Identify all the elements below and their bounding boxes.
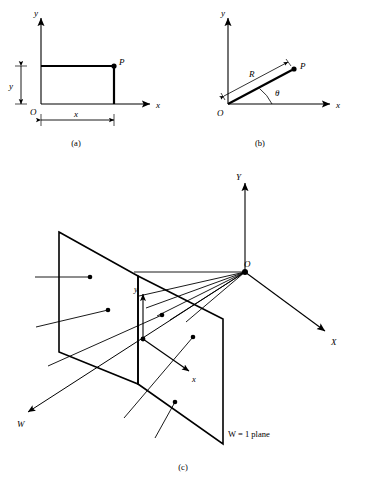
panel-c-local-origin-point: [141, 337, 146, 342]
panel-a-point-P: [111, 63, 116, 68]
panel-c-plane-label: W = 1 plane: [228, 429, 270, 439]
panel-c-local-x-label: x: [191, 374, 196, 384]
panel-c-origin-label: O: [244, 259, 251, 269]
panel-a-x-axis-label: x: [155, 100, 160, 110]
scene-point-3: [160, 313, 165, 318]
panel-b-caption: (b): [255, 138, 265, 148]
scene-point-1: [88, 275, 93, 280]
panel-a-origin-label: O: [30, 107, 37, 117]
panel-b-x-axis-label: x: [335, 100, 340, 110]
scene-point-2: [106, 308, 111, 313]
scene-point-4: [191, 335, 196, 340]
figure-root: P O x y y x (a) R P: [0, 0, 366, 490]
panel-c-origin-point: [242, 269, 248, 275]
figure-canvas: P O x y y x (a) R P: [0, 0, 366, 490]
scene-point-5: [173, 400, 178, 405]
panel-b-point-P: [291, 66, 296, 71]
panel-b-y-axis-label: y: [220, 8, 225, 18]
panel-a-y-axis-label: y: [33, 8, 38, 18]
panel-a-caption: (a): [71, 138, 81, 148]
panel-b-point-label: P: [299, 61, 306, 71]
panel-b-angle-label: θ: [275, 88, 280, 98]
panel-c-local-y-label: y: [133, 284, 138, 294]
panel-a-point-label: P: [118, 57, 125, 67]
panel-b-origin-label: O: [217, 108, 224, 118]
panel-c-X-axis-label: X: [330, 337, 337, 347]
panel-c-caption: (c): [178, 462, 188, 472]
panel-b-radius-label: R: [248, 69, 255, 79]
panel-a-y-dimension-label: y: [8, 81, 13, 91]
panel-a-x-dimension-label: x: [73, 109, 78, 119]
